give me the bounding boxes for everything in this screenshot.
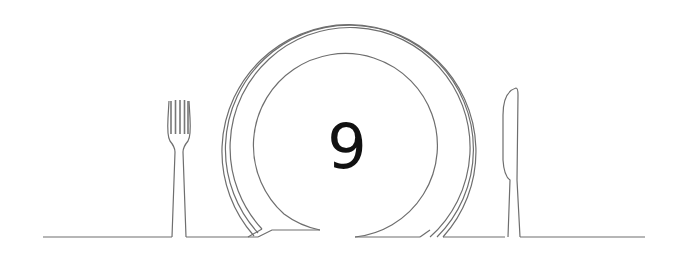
fork-icon: [168, 100, 191, 237]
table-number: 9: [297, 112, 397, 182]
knife-icon: [503, 88, 520, 237]
